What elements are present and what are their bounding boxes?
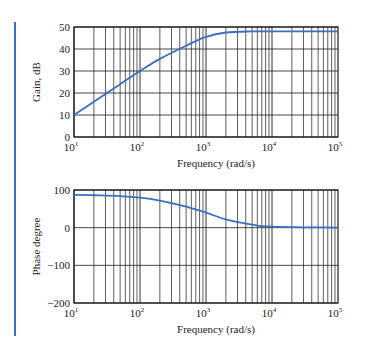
x-axis-label: Frequency (rad/s) [177, 157, 255, 170]
y-axis-label: Gain, dB [30, 62, 42, 102]
y-tick-label: −100 [47, 259, 70, 271]
x-tick-label: 103 [196, 140, 211, 153]
y-tick-label: 30 [59, 65, 71, 77]
x-tick-label: 102 [130, 306, 145, 319]
y-tick-label: 40 [59, 43, 71, 55]
y-tick-label: 50 [59, 21, 71, 33]
x-axis-label: Frequency (rad/s) [177, 323, 255, 336]
bode-plot: 01020304050101102103104105Frequency (rad… [0, 0, 368, 356]
x-tick-label: 104 [262, 306, 277, 319]
x-tick-label: 105 [328, 306, 343, 319]
x-tick-label: 104 [262, 140, 277, 153]
phase-plot: −200−1000100101102103104105Frequency (ra… [30, 184, 343, 336]
x-tick-label: 103 [196, 306, 211, 319]
y-tick-label: 0 [65, 222, 71, 234]
y-tick-label: 20 [59, 87, 71, 99]
x-tick-label: 101 [64, 140, 79, 153]
x-tick-label: 101 [64, 306, 79, 319]
y-axis-label: Phase degree [30, 218, 42, 276]
gain-plot: 01020304050101102103104105Frequency (rad… [30, 21, 343, 170]
y-tick-label: 10 [59, 109, 71, 121]
x-tick-label: 102 [130, 140, 145, 153]
x-tick-label: 105 [328, 140, 343, 153]
y-tick-label: 100 [54, 184, 71, 196]
